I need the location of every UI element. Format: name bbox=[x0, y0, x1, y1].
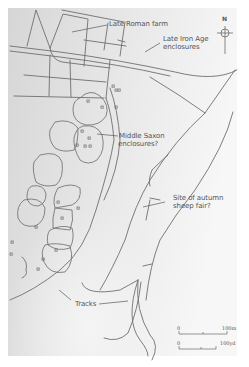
label-middle-saxon-line2: enclosures? bbox=[118, 140, 158, 148]
north-label: N bbox=[222, 15, 227, 23]
scale-yards-end: 100yd bbox=[220, 340, 236, 346]
scale-metres-end: 100m bbox=[222, 325, 236, 331]
label-middle-saxon-line1: Middle Saxon bbox=[119, 132, 165, 140]
label-late-iron-age-line1: Late Iron Age bbox=[163, 35, 208, 43]
scale-yards-start: 0 bbox=[177, 340, 180, 346]
label-late-roman-farm: Late Roman farm bbox=[109, 20, 168, 28]
label-sheep-fair-line2: sheep fair? bbox=[173, 202, 211, 210]
label-sheep-fair-line1: Site of autumn bbox=[173, 194, 223, 202]
label-tracks: Tracks bbox=[75, 300, 96, 308]
site-plan-map bbox=[0, 0, 249, 367]
label-late-iron-age-line2: enclosures bbox=[163, 43, 200, 51]
scale-metres-start: 0 bbox=[177, 325, 180, 331]
